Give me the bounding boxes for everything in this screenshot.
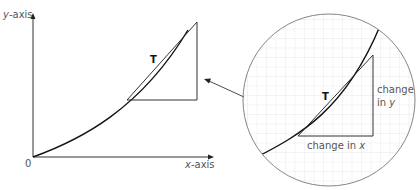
magnified-view: T change in y change in x (243, 14, 415, 190)
curve (33, 30, 188, 157)
magnified-tangent-point-label: T (322, 91, 329, 102)
pointer-arrow-icon (204, 79, 211, 84)
tangent-point-label: T (150, 54, 157, 65)
main-graph: y-axis 0 x-axis T (2, 9, 215, 170)
x-axis-label: x-axis (184, 159, 215, 170)
change-in-y-label-line2: in y (377, 97, 396, 108)
magnify-pointer (204, 79, 244, 98)
change-in-y-label: change (377, 84, 414, 95)
tangent-triangle (127, 22, 197, 100)
origin-label: 0 (25, 158, 31, 169)
change-in-x-label: change in x (307, 140, 365, 151)
y-axis-label: y-axis (2, 9, 33, 20)
gradient-tangent-diagram: y-axis 0 x-axis T T (0, 0, 417, 190)
